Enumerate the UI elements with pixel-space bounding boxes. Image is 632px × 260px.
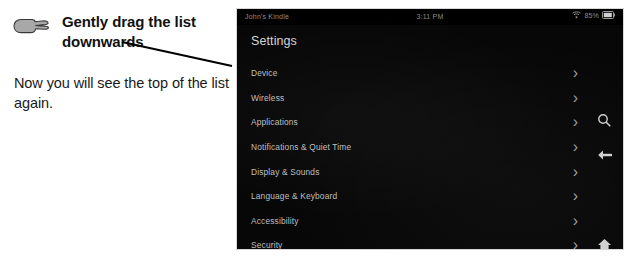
settings-row-label: Display & Sounds bbox=[251, 167, 320, 177]
device-toolbar bbox=[589, 25, 623, 249]
settings-row-language-keyboard[interactable]: Language & Keyboard › bbox=[237, 184, 623, 209]
settings-row-display-sounds[interactable]: Display & Sounds › bbox=[237, 159, 623, 184]
instruction-panel: Gently drag the list downwards Now you w… bbox=[0, 0, 236, 260]
device-screenshot: John's Kindle 3:11 PM 85% Settings bbox=[236, 8, 624, 250]
search-icon[interactable] bbox=[597, 113, 611, 131]
settings-row-wireless[interactable]: Wireless › bbox=[237, 86, 623, 111]
battery-icon bbox=[602, 11, 615, 20]
wifi-icon bbox=[572, 11, 581, 20]
status-bar: John's Kindle 3:11 PM 85% bbox=[237, 9, 623, 25]
chevron-right-icon: › bbox=[573, 236, 578, 250]
settings-row-notifications-quiet-time[interactable]: Notifications & Quiet Time › bbox=[237, 135, 623, 160]
settings-row-accessibility[interactable]: Accessibility › bbox=[237, 209, 623, 234]
status-battery-percent: 85% bbox=[584, 12, 599, 19]
page-title: Settings bbox=[251, 34, 297, 48]
chevron-right-icon: › bbox=[573, 113, 578, 131]
settings-row-security[interactable]: Security › bbox=[237, 233, 623, 250]
chevron-right-icon: › bbox=[573, 163, 578, 181]
back-arrow-icon[interactable] bbox=[597, 147, 612, 165]
home-icon[interactable] bbox=[597, 237, 612, 250]
page-subtext: Now you will see the top of the list aga… bbox=[14, 73, 230, 113]
settings-row-label: Applications bbox=[251, 117, 298, 127]
chevron-right-icon: › bbox=[573, 212, 578, 230]
settings-row-label: Device bbox=[251, 68, 278, 78]
settings-row-applications[interactable]: Applications › bbox=[237, 110, 623, 135]
settings-row-label: Language & Keyboard bbox=[251, 191, 337, 201]
settings-row-label: Wireless bbox=[251, 93, 284, 103]
chevron-right-icon: › bbox=[573, 138, 578, 156]
settings-row-label: Notifications & Quiet Time bbox=[251, 142, 351, 152]
status-indicators: 85% bbox=[572, 11, 615, 20]
chevron-right-icon: › bbox=[573, 187, 578, 205]
chevron-right-icon: › bbox=[573, 89, 578, 107]
status-clock: 3:11 PM bbox=[237, 13, 623, 20]
page-headline: Gently drag the list downwards bbox=[62, 12, 230, 52]
chevron-right-icon: › bbox=[573, 64, 578, 82]
settings-row-label: Accessibility bbox=[251, 216, 299, 226]
pointing-hand-icon bbox=[12, 15, 54, 37]
settings-row-device[interactable]: Device › bbox=[237, 61, 623, 86]
settings-row-label: Security bbox=[251, 240, 282, 250]
settings-list[interactable]: Device › Wireless › Applications › Notif… bbox=[237, 61, 623, 250]
